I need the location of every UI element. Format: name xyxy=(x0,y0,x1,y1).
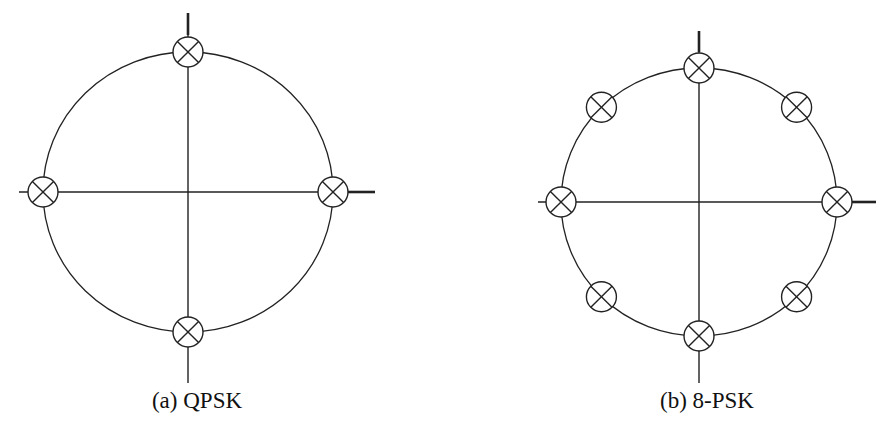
8psk-caption: (b) 8-PSK xyxy=(660,388,754,414)
qpsk-constellation xyxy=(19,13,375,383)
constellation-point xyxy=(782,282,812,312)
constellation-point xyxy=(684,53,714,83)
constellation-point xyxy=(684,321,714,351)
constellation-point xyxy=(822,187,852,217)
constellation-point xyxy=(586,282,616,312)
constellation-point xyxy=(586,92,616,122)
constellation-point xyxy=(318,177,348,207)
constellation-point xyxy=(173,317,203,347)
8psk-constellation xyxy=(538,31,876,383)
constellation-diagrams xyxy=(0,0,887,436)
constellation-point xyxy=(546,187,576,217)
constellation-point xyxy=(28,177,58,207)
constellation-point xyxy=(173,37,203,67)
qpsk-caption: (a) QPSK xyxy=(152,388,242,414)
constellation-point xyxy=(782,92,812,122)
